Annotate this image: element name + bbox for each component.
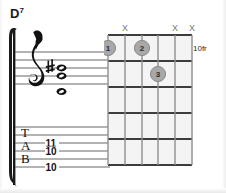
chord-notes bbox=[46, 59, 67, 95]
treble-clef-icon bbox=[29, 30, 45, 86]
finger-dot-1[interactable]: 1 bbox=[104, 40, 116, 55]
muted-string-markers: X X X bbox=[122, 23, 195, 33]
music-notation: T A B 11 10 10 bbox=[0, 24, 110, 189]
finger-dot-3[interactable]: 3 bbox=[150, 66, 165, 81]
chord-quality-superscript: 7 bbox=[19, 6, 23, 15]
chord-root: D bbox=[10, 6, 19, 21]
muted-marker-string-2: X bbox=[122, 23, 128, 33]
tab-number-2: 10 bbox=[46, 146, 58, 157]
chord-chart-page: D7 bbox=[0, 0, 226, 193]
whole-note-3 bbox=[57, 88, 67, 95]
tab-numbers: 11 10 10 bbox=[45, 138, 59, 173]
whole-note-1 bbox=[57, 64, 67, 71]
tab-number-3: 10 bbox=[46, 162, 58, 173]
svg-text:1: 1 bbox=[106, 44, 111, 53]
finger-dot-2[interactable]: 2 bbox=[134, 40, 149, 55]
svg-text:2: 2 bbox=[140, 44, 145, 53]
sharp-accidental-icon bbox=[46, 59, 55, 73]
chord-name: D7 bbox=[10, 7, 24, 20]
fretboard-diagram[interactable]: X X X bbox=[104, 18, 226, 188]
tab-letter-b: B bbox=[21, 151, 30, 166]
muted-marker-string-5: X bbox=[172, 23, 178, 33]
svg-text:3: 3 bbox=[156, 70, 161, 79]
muted-marker-string-6: X bbox=[189, 23, 195, 33]
fret-position-label: 10fr bbox=[193, 44, 207, 53]
tab-letters: T A B bbox=[21, 125, 31, 166]
whole-note-2 bbox=[57, 72, 67, 79]
